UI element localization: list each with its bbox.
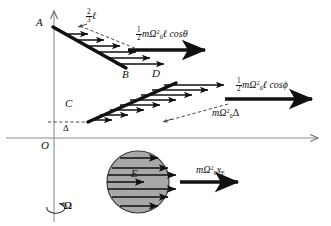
fraction-one-half: 1 2 <box>136 27 142 43</box>
formula-force-CD: 1 2 mΩ20ℓ cosϕ <box>236 78 288 94</box>
formula-sphere-pre: mΩ <box>196 164 210 175</box>
formula-delta-post: Δ <box>233 107 239 118</box>
formula-sphere-xsub: E <box>221 169 225 176</box>
formula-cd-pre: mΩ <box>242 79 256 90</box>
fraction-two-thirds: 2 3 <box>86 9 92 25</box>
ell-symbol: ℓ <box>92 10 96 21</box>
formula-force-delta: mΩ20Δ <box>212 108 239 119</box>
physics-diagram-figure: A B C D E O Δ 2 3 ℓ 1 2 mΩ20ℓ cosθ 1 2 m… <box>0 0 331 226</box>
point-label-E: E <box>131 168 138 179</box>
rod-AB <box>53 27 126 68</box>
rotation-omega-symbol <box>47 204 65 214</box>
point-label-A: A <box>36 17 43 28</box>
formula-ab-post: ℓ cosθ <box>163 28 188 39</box>
origin-label-O: O <box>41 140 49 151</box>
formula-delta-pre: mΩ <box>212 107 226 118</box>
fraction-one-half-2: 1 2 <box>236 78 242 94</box>
point-label-B: B <box>122 69 129 80</box>
formula-force-AB: 1 2 mΩ20ℓ cosθ <box>136 27 188 43</box>
two-thirds-ell-label: 2 3 ℓ <box>86 9 96 25</box>
omega-rotation-label: Ω <box>64 201 72 211</box>
rod-CD <box>88 83 176 122</box>
delta-label: Δ <box>63 124 69 133</box>
formula-force-sphere: mΩ20xE <box>196 165 225 176</box>
rod-CD-force-arrows <box>90 85 224 120</box>
formula-cd-post: ℓ cosϕ <box>263 79 288 90</box>
point-label-D: D <box>152 68 160 79</box>
formula-ab-pre: mΩ <box>142 28 156 39</box>
point-label-C: C <box>65 98 72 109</box>
